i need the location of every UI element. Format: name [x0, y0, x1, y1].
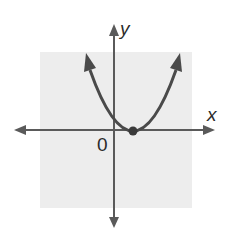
- origin-label: 0: [97, 134, 108, 156]
- x-axis-label: x: [207, 104, 217, 126]
- parabola-graph: [0, 0, 232, 229]
- y-axis-label: y: [120, 18, 130, 40]
- y-axis-down-arrow-icon: [109, 217, 119, 228]
- x-axis-right-arrow-icon: [203, 125, 215, 135]
- vertex-point: [129, 127, 138, 136]
- x-axis-left-arrow-icon: [14, 125, 26, 135]
- y-axis-up-arrow-icon: [109, 24, 119, 36]
